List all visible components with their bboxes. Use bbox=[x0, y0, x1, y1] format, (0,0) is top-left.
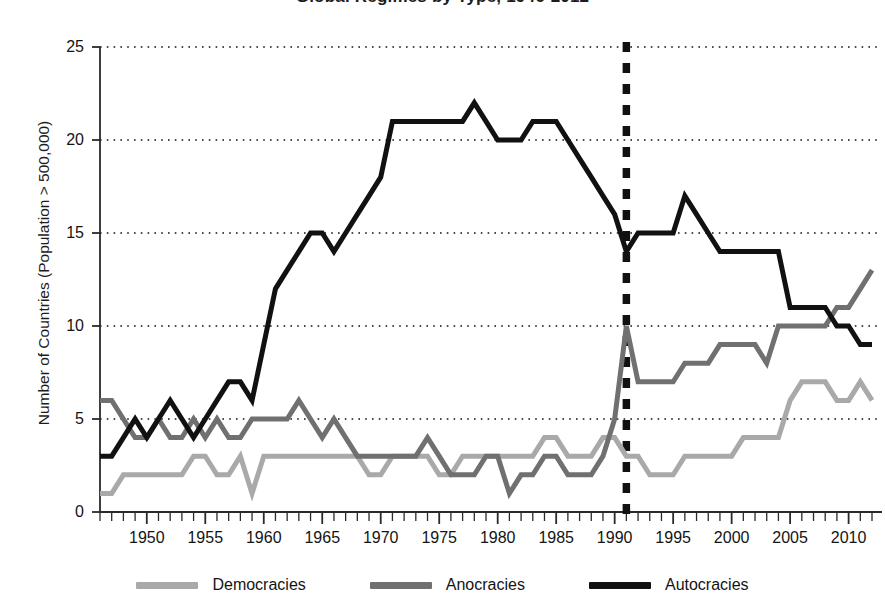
legend-item-anocracies[interactable]: Anocracies bbox=[370, 576, 525, 594]
axis-lines bbox=[100, 47, 882, 512]
x-tick-label: 1980 bbox=[480, 529, 516, 547]
x-tick-label: 1950 bbox=[129, 529, 165, 547]
x-tick-label: 2010 bbox=[831, 529, 867, 547]
legend-swatch-icon bbox=[589, 582, 651, 589]
x-tick-label: 1990 bbox=[597, 529, 633, 547]
legend-label: Autocracies bbox=[665, 576, 749, 594]
x-tick-label: 1975 bbox=[421, 529, 457, 547]
chart-figure: Global Regimes by Type, 1946-2012 Number… bbox=[0, 0, 885, 616]
legend-swatch-icon bbox=[370, 582, 432, 589]
x-tick-label: 2000 bbox=[714, 529, 750, 547]
series-line-anocracies bbox=[100, 270, 872, 493]
x-tick-label: 1970 bbox=[363, 529, 399, 547]
x-tick-label: 1955 bbox=[187, 529, 223, 547]
data-series-group bbox=[100, 103, 872, 494]
x-tick-label: 1965 bbox=[304, 529, 340, 547]
y-axis-ticks bbox=[92, 47, 100, 512]
series-line-autocracies bbox=[100, 103, 872, 456]
y-tick-label: 25 bbox=[42, 38, 84, 56]
legend-item-autocracies[interactable]: Autocracies bbox=[589, 576, 749, 594]
x-tick-label: 1985 bbox=[538, 529, 574, 547]
legend-item-democracies[interactable]: Democracies bbox=[136, 576, 305, 594]
legend-swatch-icon bbox=[136, 582, 198, 589]
x-axis-ticks bbox=[100, 512, 872, 524]
chart-legend: DemocraciesAnocraciesAutocracies bbox=[0, 570, 885, 600]
legend-label: Anocracies bbox=[446, 576, 525, 594]
x-tick-label: 1995 bbox=[655, 529, 691, 547]
y-tick-label: 5 bbox=[42, 410, 84, 428]
x-tick-label: 1960 bbox=[246, 529, 282, 547]
y-tick-label: 15 bbox=[42, 224, 84, 242]
legend-label: Democracies bbox=[212, 576, 305, 594]
plot-area bbox=[0, 0, 885, 616]
x-tick-label: 2005 bbox=[772, 529, 808, 547]
y-tick-label: 0 bbox=[42, 503, 84, 521]
y-tick-label: 20 bbox=[42, 131, 84, 149]
y-tick-label: 10 bbox=[42, 317, 84, 335]
